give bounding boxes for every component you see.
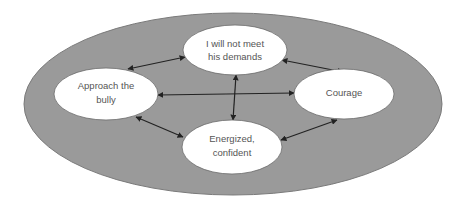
node-energized-line1: Energized,	[209, 133, 254, 144]
node-courage: Courage	[294, 69, 394, 119]
node-approach: Approach the bully	[54, 68, 158, 120]
node-approach-line1: Approach the	[78, 80, 135, 91]
node-approach-line2: bully	[96, 94, 116, 105]
node-energized-line2: confident	[213, 147, 252, 158]
node-demands: I will not meet his demands	[183, 25, 287, 75]
node-demands-line2: his demands	[208, 51, 262, 62]
node-energized: Energized, confident	[182, 120, 282, 174]
node-demands-line1: I will not meet	[206, 38, 264, 49]
diagram-canvas: I will not meet his demands Approach the…	[0, 0, 462, 207]
node-courage-line1: Courage	[326, 87, 362, 98]
